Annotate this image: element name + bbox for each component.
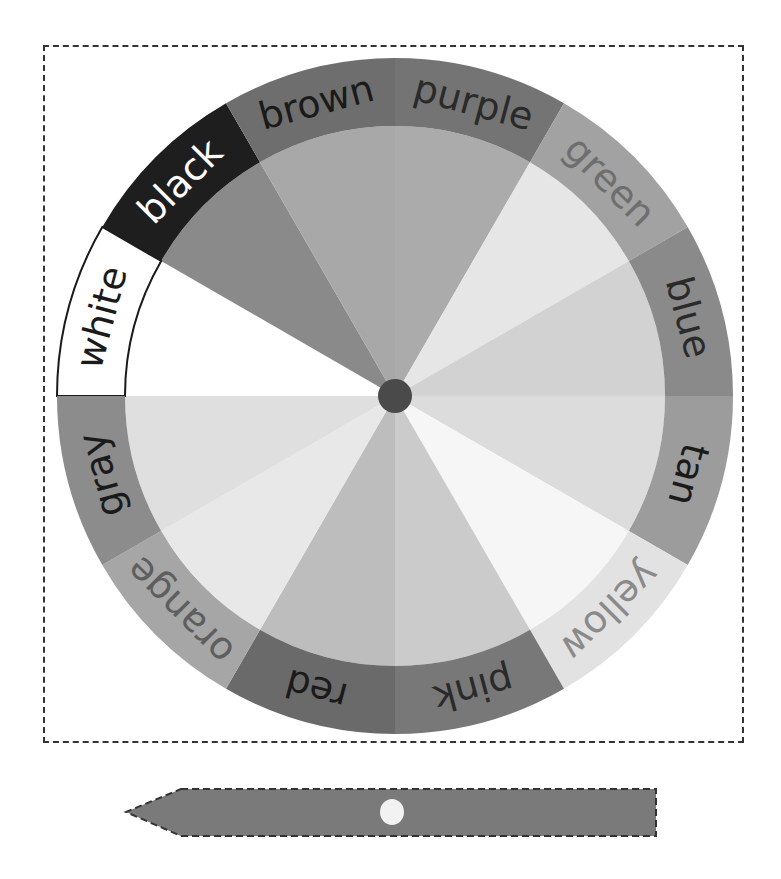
spinner-pointer[interactable] <box>0 0 781 879</box>
pointer-hole-icon <box>380 799 404 825</box>
